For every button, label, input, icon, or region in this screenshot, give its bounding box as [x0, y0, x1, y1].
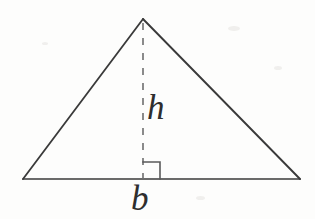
triangle-left-side [23, 19, 143, 179]
height-label: h [147, 90, 165, 125]
base-label: b [131, 181, 149, 216]
right-angle-marker-icon [143, 162, 160, 179]
triangle-right-side [143, 19, 300, 179]
geometry-figure: h b [0, 0, 315, 219]
